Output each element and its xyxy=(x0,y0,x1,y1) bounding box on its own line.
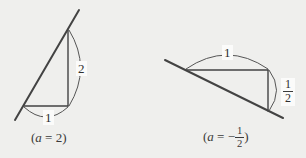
caption-right-fraction: 1 2 xyxy=(235,125,244,148)
rise-fraction-right: 1 2 xyxy=(283,78,293,104)
caption-left-eq: = xyxy=(42,130,56,145)
rise-label-right: 1 2 xyxy=(281,78,295,106)
slope-figure: 1 2 (a = 2) 1 1 2 (a = − 1 2 ) xyxy=(0,0,306,158)
slope-line-right xyxy=(165,60,283,118)
rise-arc-right xyxy=(269,70,277,111)
run-label-left: 1 xyxy=(43,110,54,125)
panel-left xyxy=(15,10,81,120)
rise-fraction-denominator-right: 2 xyxy=(283,92,293,105)
caption-right: (a = − 1 2 ) xyxy=(203,126,249,149)
caption-right-eq: = xyxy=(214,129,228,144)
caption-right-minus: − xyxy=(228,129,235,144)
caption-left-close: ) xyxy=(62,130,66,145)
caption-right-fraction-numerator: 1 xyxy=(235,125,244,137)
rise-fraction-numerator-right: 1 xyxy=(283,78,293,92)
panel-right xyxy=(165,55,283,118)
run-label-right: 1 xyxy=(222,45,233,60)
caption-left: (a = 2) xyxy=(31,130,67,146)
caption-right-close: ) xyxy=(244,129,248,144)
rise-label-left: 2 xyxy=(76,61,87,76)
slope-line-left xyxy=(15,10,79,120)
caption-right-fraction-denominator: 2 xyxy=(235,138,244,149)
